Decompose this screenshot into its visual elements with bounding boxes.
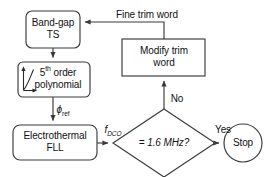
phi-subscript: ref [62, 110, 69, 117]
modify-line2: word [140, 57, 188, 69]
polynomial-label: 5th order polynomial [35, 67, 82, 91]
polynomial-order-word: order [51, 67, 77, 78]
fine-trim-word-label: Fine trim word [116, 9, 178, 20]
electrothermal-fll-label: Electrothermal FLL [23, 130, 86, 154]
stop-label: Stop [233, 137, 253, 148]
polynomial-line1: 5th order [35, 67, 82, 79]
yes-branch-label: Yes [215, 124, 231, 135]
flowchart-diagram: Band-gap TS 5th order polynomial Electro… [0, 0, 273, 177]
f-dco-subscript: DCO [107, 130, 121, 137]
no-branch-label: No [171, 93, 184, 104]
bandgap-line1: Band-gap [32, 17, 75, 29]
f-dco-label: fDCO [105, 124, 122, 135]
connector-modify-to-bandgap [85, 22, 164, 39]
phi-ref-label: ϕref [57, 104, 70, 115]
bandgap-ts-label: Band-gap TS [32, 17, 75, 41]
fll-line1: Electrothermal [23, 130, 86, 142]
decision-label: = 1.6 MHz? [139, 137, 189, 148]
bandgap-line2: TS [32, 29, 75, 41]
modify-trim-word-label: Modify trim word [140, 45, 188, 69]
polynomial-line2: polynomial [35, 79, 82, 91]
fll-line2: FLL [23, 142, 86, 154]
modify-line1: Modify trim [140, 45, 188, 57]
